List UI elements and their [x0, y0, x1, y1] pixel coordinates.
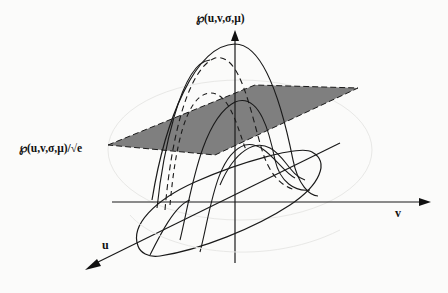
u-axis [92, 143, 340, 265]
u-axis-label: u [102, 239, 109, 251]
v-axis-arrowhead-icon [419, 198, 431, 206]
u-axis-arrowhead-icon [85, 259, 101, 270]
plane-level-label: ℘(u,v,σ,μ)/√e [19, 143, 82, 155]
inner-curve-3 [200, 144, 295, 252]
cutting-plane [108, 85, 358, 155]
vertical-axis-arrowhead-icon [231, 30, 239, 41]
vertical-axis-label: ℘(u,v,σ,μ) [196, 13, 245, 25]
inner-curve-4 [150, 200, 190, 255]
gaussian-surface-diagram: ℘(u,v,σ,μ) ℘(u,v,σ,μ)/√e v u [0, 0, 448, 293]
v-axis-label: v [395, 207, 401, 219]
